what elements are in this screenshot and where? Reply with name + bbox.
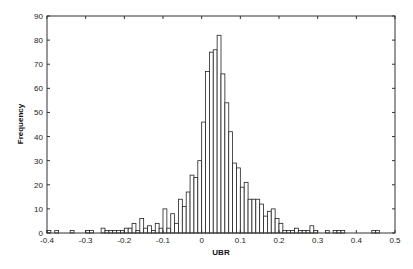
- histogram-chart: -0.4-0.3-0.2-0.100.10.20.30.40.5 0102030…: [0, 0, 413, 269]
- x-tick-label: 0.5: [389, 236, 401, 245]
- y-tick-label: 60: [34, 84, 43, 93]
- histogram-bar: [144, 228, 148, 233]
- x-tick-label: -0.2: [117, 236, 131, 245]
- y-tick-label: 30: [34, 157, 43, 166]
- histogram-bar: [190, 175, 194, 233]
- y-tick-label: 0: [39, 229, 44, 238]
- histogram-bar: [206, 71, 210, 233]
- histogram-bar: [178, 199, 182, 233]
- histogram-bar: [175, 223, 179, 233]
- x-tick-label: -0.3: [79, 236, 93, 245]
- y-axis-label: Frequency: [16, 103, 25, 144]
- histogram-bar: [267, 211, 271, 233]
- y-tick-label: 40: [34, 133, 43, 142]
- histogram-bar: [256, 199, 260, 233]
- histogram-bar: [148, 226, 152, 233]
- histogram-bar: [198, 161, 202, 233]
- histogram-bar: [229, 132, 233, 233]
- histogram-bar: [163, 209, 167, 233]
- y-tick-label: 50: [34, 108, 43, 117]
- y-tick-label: 20: [34, 181, 43, 190]
- histogram-bar: [155, 223, 159, 233]
- histogram-bar: [221, 74, 225, 233]
- histogram-bar: [159, 228, 163, 233]
- histogram-bar: [236, 168, 240, 233]
- x-axis-label: UBR: [212, 248, 230, 257]
- histogram-bar: [225, 103, 229, 233]
- x-tick-label: 0: [199, 236, 204, 245]
- y-tick-label: 80: [34, 36, 43, 45]
- histogram-bar: [182, 206, 186, 233]
- histogram-bar: [240, 187, 244, 233]
- histogram-bar: [194, 178, 198, 233]
- histogram-bar: [124, 228, 128, 233]
- histogram-bar: [294, 228, 298, 233]
- histogram-bar: [233, 163, 237, 233]
- histogram-bar: [171, 214, 175, 233]
- histogram-bar: [101, 228, 105, 233]
- histogram-bar: [132, 223, 136, 233]
- histogram-bar: [260, 204, 264, 233]
- histogram-bar: [310, 226, 314, 233]
- x-tick-label: 0.4: [351, 236, 363, 245]
- histogram-bar: [128, 228, 132, 233]
- x-tick-label: 0.1: [235, 236, 247, 245]
- histogram-bar: [248, 199, 252, 233]
- histogram-bar: [264, 216, 268, 233]
- x-tick-label: 0.2: [273, 236, 285, 245]
- histogram-bar: [275, 219, 279, 233]
- histogram-bar: [244, 182, 248, 233]
- histogram-bar: [271, 209, 275, 233]
- histogram-bar: [217, 35, 221, 233]
- histogram-bar: [209, 52, 213, 233]
- histogram-bar: [279, 223, 283, 233]
- histogram-bar: [186, 192, 190, 233]
- histogram-bar: [202, 122, 206, 233]
- histogram-bar: [140, 219, 144, 233]
- histogram-bar: [252, 199, 256, 233]
- histogram-bar: [213, 50, 217, 233]
- x-tick-label: -0.1: [156, 236, 170, 245]
- x-tick-label: 0.3: [312, 236, 324, 245]
- histogram-bar: [167, 228, 171, 233]
- histogram-bars: [47, 35, 380, 233]
- y-tick-label: 10: [34, 205, 43, 214]
- y-tick-label: 90: [34, 12, 43, 21]
- y-tick-label: 70: [34, 60, 43, 69]
